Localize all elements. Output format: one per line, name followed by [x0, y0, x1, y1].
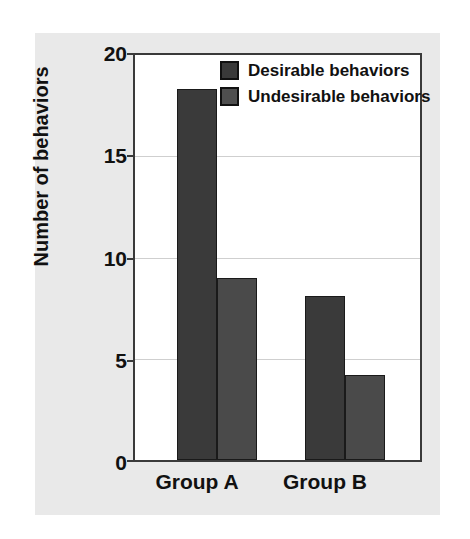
legend-item-desirable: Desirable behaviors: [220, 58, 420, 82]
legend-label-desirable: Desirable behaviors: [248, 62, 410, 79]
bar-group-b-undesirable: [345, 375, 385, 460]
figure-root: Number of behaviors 20 15 10 5 0: [0, 0, 470, 539]
plot-frame: Desirable behaviors Undesirable behavior…: [133, 53, 422, 462]
legend-swatch-icon-desirable: [220, 61, 239, 80]
y-axis-tick-labels: 20 15 10 5 0: [80, 53, 127, 462]
legend-label-undesirable: Undesirable behaviors: [248, 88, 430, 105]
y-tick-label-10: 10: [87, 247, 127, 268]
y-tick-label-0: 0: [87, 452, 127, 473]
y-tick-label-20: 20: [87, 43, 127, 64]
legend-swatch-icon-undesirable: [220, 87, 239, 106]
bar-group-b-desirable: [305, 296, 345, 460]
bar-group-a-desirable: [177, 89, 217, 460]
y-axis-title: Number of behaviors: [30, 97, 53, 267]
x-tick-label-group-b: Group B: [261, 470, 389, 494]
y-tick-label-15: 15: [87, 145, 127, 166]
plot-area: [135, 55, 420, 460]
y-tick-label-5: 5: [87, 349, 127, 370]
bar-group-a-undesirable: [217, 278, 257, 460]
chart-legend: Desirable behaviors Undesirable behavior…: [220, 58, 420, 110]
legend-item-undesirable: Undesirable behaviors: [220, 84, 420, 108]
x-tick-label-group-a: Group A: [133, 470, 261, 494]
